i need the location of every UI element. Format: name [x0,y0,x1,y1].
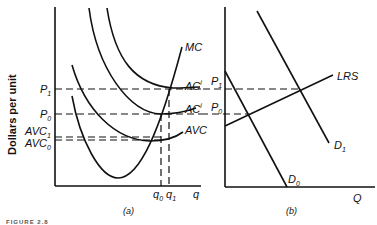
y-axis-title: Dollars per unit [6,74,18,155]
p1-label: P1 [40,83,51,97]
panel-b-x-label: Q [353,192,362,204]
economics-diagram: Dollars per unit P1 P0 AVC1 AVC0 MC ACi … [0,0,377,225]
q0-label: q0 [153,188,163,202]
panel-b-p1-label: P1 [211,75,222,89]
d0-curve [225,71,287,187]
ac-upper-label: ACi [184,79,202,92]
panel-a-x-label: q [193,188,200,200]
panel-a: Dollars per unit P1 P0 AVC1 AVC0 MC ACi … [6,7,207,216]
ac-lower-curve [89,8,196,114]
panel-b: P1 P0 LRS D1 D0 Q (b) [201,7,375,216]
d1-curve [257,11,329,143]
panel-b-caption: (b) [286,206,297,216]
d0-label: D0 [288,173,300,187]
mc-label: MC [185,41,202,53]
avc-curve-label: AVC [184,124,207,136]
d1-label: D1 [334,139,346,153]
q1-label: q1 [166,188,176,202]
avc0-label: AVC0 [24,137,51,151]
panel-a-caption: (a) [123,206,134,216]
p0-label: P0 [40,108,51,122]
ac-lower-label: ACi [184,102,202,115]
panel-b-p0-label: P0 [211,101,222,115]
mc-curve [72,47,182,178]
figure-label: FIGURE 2.8 [6,219,49,225]
lrs-label: LRS [337,70,359,82]
